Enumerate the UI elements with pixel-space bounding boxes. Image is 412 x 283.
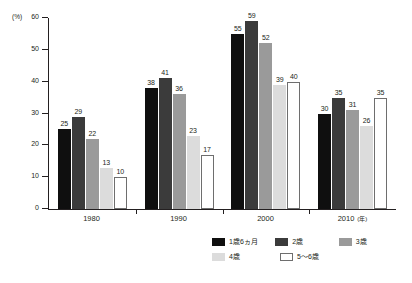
legend-swatch	[275, 238, 288, 246]
bar-slot: 22	[86, 18, 99, 209]
bar-slot: 38	[145, 18, 158, 209]
bar[interactable]	[287, 82, 300, 209]
bar-value-label: 38	[147, 79, 155, 87]
bar-group: 2529221310	[49, 18, 136, 209]
bar-value-label: 13	[102, 159, 110, 167]
bar[interactable]	[145, 88, 158, 209]
y-axis-tick: 10	[42, 176, 48, 177]
legend-item[interactable]: 4歳	[212, 252, 280, 261]
bar[interactable]	[100, 168, 113, 209]
bar[interactable]	[86, 139, 99, 209]
bar-slot: 10	[114, 18, 127, 209]
y-axis-tick-label: 40	[31, 76, 39, 85]
bar-value-label: 35	[377, 89, 385, 97]
legend-label: 2歳	[292, 237, 303, 246]
plot-area: 0102030405060 25292213103841362317555952…	[48, 18, 396, 210]
bar[interactable]	[259, 43, 272, 209]
bar-slot: 39	[273, 18, 286, 209]
bar-slot: 35	[374, 18, 387, 209]
y-axis-tick-label: 10	[31, 171, 39, 180]
bar[interactable]	[318, 114, 331, 210]
legend-swatch	[212, 253, 225, 261]
legend-label: 4歳	[229, 252, 240, 261]
legend-swatch	[212, 238, 225, 246]
bar-slot: 55	[231, 18, 244, 209]
x-axis-unit-label: (年)	[357, 216, 367, 222]
bar[interactable]	[72, 117, 85, 209]
bar[interactable]	[231, 34, 244, 209]
bar-slot: 40	[287, 18, 300, 209]
bar-slot: 17	[201, 18, 214, 209]
bar-value-label: 10	[116, 168, 124, 176]
x-axis-label: 2010(年)	[309, 214, 396, 223]
bar-value-label: 41	[161, 69, 169, 77]
bar-group: 3035312635	[309, 18, 396, 209]
y-axis-tick: 60	[42, 17, 48, 18]
bar-value-label: 39	[276, 76, 284, 84]
bar[interactable]	[245, 21, 258, 209]
bar-value-label: 55	[234, 25, 242, 33]
legend-row: 1歳6ヵ月2歳3歳	[212, 237, 402, 246]
bar-slot: 23	[187, 18, 200, 209]
y-axis-tick: 30	[42, 113, 48, 114]
bar-value-label: 40	[290, 73, 298, 81]
bar-slot: 36	[173, 18, 186, 209]
bar-slot: 31	[346, 18, 359, 209]
bar[interactable]	[273, 85, 286, 209]
legend-item[interactable]: 2歳	[275, 237, 338, 246]
bar-value-label: 17	[203, 146, 211, 154]
legend-item[interactable]: 3歳	[339, 237, 402, 246]
bar-value-label: 22	[88, 130, 96, 138]
bar-slot: 26	[360, 18, 373, 209]
y-axis-tick: 40	[42, 81, 48, 82]
bar-value-label: 30	[321, 105, 329, 113]
bar[interactable]	[201, 155, 214, 209]
y-axis-tick-label: 0	[35, 203, 39, 212]
bar-slot: 35	[332, 18, 345, 209]
y-axis-unit-label: (%)	[12, 13, 22, 20]
x-axis-label: 1980	[48, 214, 135, 223]
bar-groups: 2529221310384136231755595239403035312635	[49, 18, 396, 209]
x-axis-label-text: 2000	[257, 214, 274, 223]
bar-slot: 25	[58, 18, 71, 209]
bar-slot: 29	[72, 18, 85, 209]
bar-slot: 59	[245, 18, 258, 209]
legend-item[interactable]: 1歳6ヵ月	[212, 237, 275, 246]
x-axis-label: 2000	[222, 214, 309, 223]
y-axis-tick-label: 60	[31, 12, 39, 21]
bar[interactable]	[332, 98, 345, 209]
y-axis-tick: 20	[42, 144, 48, 145]
y-axis-tick-label: 20	[31, 139, 39, 148]
bar[interactable]	[187, 136, 200, 209]
bar-slot: 13	[100, 18, 113, 209]
legend-label: 5〜6歳	[297, 252, 319, 261]
bar-slot: 41	[159, 18, 172, 209]
bar-value-label: 36	[175, 85, 183, 93]
bar-value-label: 26	[363, 117, 371, 125]
legend-item[interactable]: 5〜6歳	[280, 252, 348, 261]
bar[interactable]	[346, 110, 359, 209]
y-axis-tick-label: 50	[31, 44, 39, 53]
bar[interactable]	[374, 98, 387, 209]
bar-slot: 30	[318, 18, 331, 209]
bar-slot: 52	[259, 18, 272, 209]
bar[interactable]	[360, 126, 373, 209]
bar-value-label: 59	[248, 12, 256, 20]
bar[interactable]	[114, 177, 127, 209]
chart-legend: 1歳6ヵ月2歳3歳4歳5〜6歳	[212, 237, 402, 267]
x-axis-label: 1990	[135, 214, 222, 223]
legend-label: 3歳	[356, 237, 367, 246]
x-axis-labels: 1980199020002010(年)	[48, 214, 396, 223]
y-axis-tick-label: 30	[31, 108, 39, 117]
legend-row: 4歳5〜6歳	[212, 252, 402, 261]
bar-value-label: 31	[349, 101, 357, 109]
bar[interactable]	[159, 78, 172, 209]
x-axis-label-text: 2010	[338, 214, 355, 223]
bar[interactable]	[173, 94, 186, 209]
bar-value-label: 52	[262, 34, 270, 42]
bar[interactable]	[58, 129, 71, 209]
bar-value-label: 29	[74, 108, 82, 116]
legend-label: 1歳6ヵ月	[229, 237, 258, 246]
y-axis-tick: 0	[42, 208, 48, 209]
bar-group: 5559523940	[223, 18, 310, 209]
